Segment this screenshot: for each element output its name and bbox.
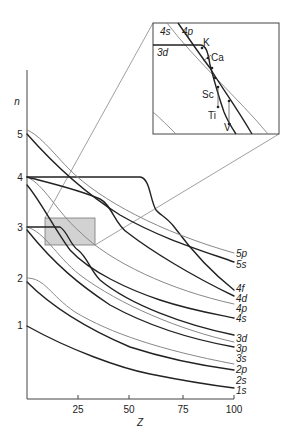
label-3s: 3s xyxy=(236,353,247,364)
x-tick-100: 100 xyxy=(226,404,243,415)
inset-connector-left xyxy=(45,23,153,218)
label-4s: 4s xyxy=(236,313,247,324)
inset-label-3d: 3d xyxy=(157,47,169,58)
series-end-labels: 5p 5s 4f 4d 4p 4s 3d 3p 3s 2p 2s 1s xyxy=(235,248,248,396)
curve-2p xyxy=(27,278,234,364)
inset-label-ca: Ca xyxy=(211,52,224,63)
y-tick-1: 1 xyxy=(17,320,23,331)
inset-label-4p: 4p xyxy=(182,26,194,37)
label-2p: 2p xyxy=(235,364,248,375)
inset-label-ti: Ti xyxy=(208,110,216,121)
inset-panel: 4s 4p 3d K Ca Sc Ti V xyxy=(153,23,279,134)
x-axis-title: Z xyxy=(136,417,144,428)
x-tick-75: 75 xyxy=(177,404,189,415)
x-tick-25: 25 xyxy=(72,404,84,415)
curve-2s xyxy=(27,282,234,370)
y-tick-4: 4 xyxy=(17,172,23,183)
label-5p: 5p xyxy=(236,248,248,259)
x-tick-50: 50 xyxy=(123,404,135,415)
y-tick-2: 2 xyxy=(17,273,23,284)
inset-label-k: K xyxy=(203,37,210,48)
curve-1s xyxy=(27,326,234,388)
label-1s: 1s xyxy=(236,385,247,396)
orbital-energy-chart: n 5 4 3 2 1 25 50 75 100 Z 5p 5s 4f 4d 4… xyxy=(0,0,292,443)
y-tick-5: 5 xyxy=(17,129,23,140)
x-ticks xyxy=(78,395,234,399)
y-axis-title: n xyxy=(14,96,20,107)
label-5s: 5s xyxy=(236,259,247,270)
y-tick-3: 3 xyxy=(17,222,23,233)
inset-label-v: V xyxy=(224,122,231,133)
inset-label-4s: 4s xyxy=(160,26,171,37)
inset-label-sc: Sc xyxy=(202,89,214,100)
